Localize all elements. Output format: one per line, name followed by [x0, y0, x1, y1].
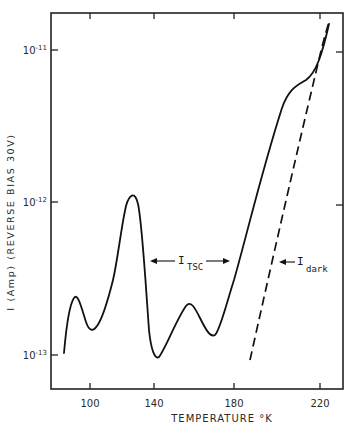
arrow-right-icon [223, 258, 230, 264]
x-tick-140: 140 [144, 398, 163, 409]
plot-frame [51, 13, 343, 389]
y-tick-1e-11: 10-11 [23, 44, 47, 56]
y-tick-1e-13: 10-13 [23, 349, 47, 361]
arrow-left-icon [150, 258, 157, 264]
dark-annotation: I dark [279, 255, 328, 274]
tsc-annotation: I TSC [150, 254, 230, 272]
x-tick-180: 180 [224, 398, 243, 409]
x-tick-220: 220 [310, 398, 329, 409]
dark-current-curve [250, 22, 329, 360]
tsc-current-curve [64, 24, 329, 358]
y-axis-ticks [51, 50, 343, 355]
svg-text:TSC: TSC [187, 262, 203, 272]
y-axis-label: I (Amp) (REVERSE BIAS 30V) [5, 133, 16, 310]
svg-text:dark: dark [306, 264, 328, 274]
x-tick-100: 100 [80, 398, 99, 409]
chart-canvas: 100 140 180 220 TEMPERATURE °K 10-11 10-… [0, 0, 355, 426]
x-axis-label: TEMPERATURE °K [170, 413, 272, 424]
y-tick-1e-12: 10-12 [23, 196, 47, 208]
svg-text:I: I [178, 254, 185, 267]
svg-text:I: I [297, 255, 304, 268]
arrow-left-icon [279, 259, 286, 265]
